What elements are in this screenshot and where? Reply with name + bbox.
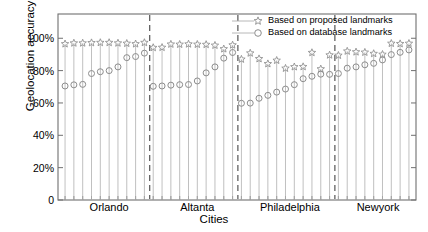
star-marker xyxy=(273,57,280,64)
x-axis-group-label: Philadelphia xyxy=(260,201,320,213)
star-marker xyxy=(344,47,351,54)
legend-entry-label: Based on proposed landmarks xyxy=(268,15,393,25)
star-marker xyxy=(150,44,157,51)
star-marker xyxy=(264,60,271,67)
x-axis-group-label: Orlando xyxy=(90,201,129,213)
star-marker xyxy=(132,40,139,47)
star-marker xyxy=(247,49,254,56)
star-marker xyxy=(211,41,218,48)
star-marker xyxy=(396,40,403,47)
star-marker xyxy=(61,40,68,47)
star-marker xyxy=(352,48,359,55)
star-marker xyxy=(158,44,165,51)
star-marker xyxy=(176,41,183,48)
star-marker xyxy=(299,63,306,70)
star-marker xyxy=(361,48,368,55)
star-marker xyxy=(238,55,245,62)
legend-circle-icon xyxy=(255,30,262,37)
star-marker xyxy=(114,39,121,46)
star-marker xyxy=(335,52,342,59)
legend-entry-label: Based on database landmarks xyxy=(268,27,392,37)
star-marker xyxy=(194,41,201,48)
star-marker xyxy=(202,41,209,48)
star-marker xyxy=(308,49,315,56)
star-marker xyxy=(79,39,86,46)
star-marker xyxy=(405,40,412,47)
group-divider-lines xyxy=(150,15,335,199)
chart-figure: Geolocation accuracy Cities 020%40%60%80… xyxy=(0,0,428,232)
star-marker xyxy=(229,41,236,48)
star-marker xyxy=(291,63,298,70)
legend-star-icon xyxy=(254,17,262,24)
star-marker xyxy=(97,39,104,46)
legend-graphics xyxy=(232,17,262,36)
x-axis-group-label: Newyork xyxy=(357,201,400,213)
star-marker xyxy=(88,39,95,46)
star-marker xyxy=(255,55,262,62)
star-marker xyxy=(70,39,77,46)
star-marker xyxy=(388,40,395,47)
star-marker xyxy=(141,39,148,46)
x-axis-group-label: Altanta xyxy=(180,201,214,213)
star-marker xyxy=(282,64,289,71)
data-markers xyxy=(61,39,412,107)
star-marker xyxy=(105,39,112,46)
star-marker xyxy=(185,40,192,47)
star-marker xyxy=(167,40,174,47)
star-marker xyxy=(220,45,227,52)
stem-lines xyxy=(65,43,409,200)
star-marker xyxy=(123,40,130,47)
star-marker xyxy=(370,50,377,57)
star-marker xyxy=(326,51,333,58)
